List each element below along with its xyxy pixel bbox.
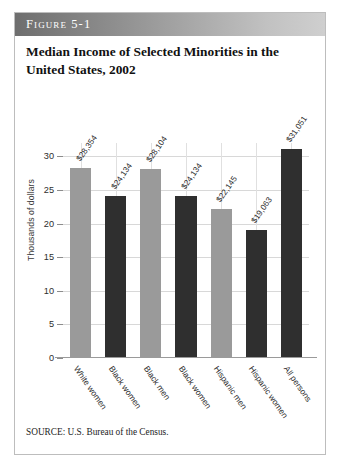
bar: $24,134Black women [105, 196, 126, 358]
y-tick-label: 30 [44, 151, 54, 161]
y-tick-label: 20 [44, 219, 54, 229]
bar-value-label: $19,063 [250, 196, 274, 225]
y-axis-title: Thousands of dollars [26, 160, 36, 280]
y-tick-label: 0 [49, 353, 54, 363]
y-tick-label: 15 [44, 252, 54, 262]
bar-value-label: $28,354 [74, 133, 98, 162]
x-axis-category-label: Hispanic men [212, 364, 249, 411]
bar-value-label: $28,104 [144, 135, 168, 164]
plot-area: 051015202530 $28,354White women$24,134Bl… [63, 143, 309, 358]
x-axis-category-label: Black women [106, 364, 143, 411]
x-axis-category-label: Black men [142, 364, 173, 402]
y-tick-mark [57, 257, 63, 258]
bar: $28,354White women [70, 168, 91, 359]
y-tick-label: 25 [44, 185, 54, 195]
figure-header-band: Figure 5-1 [15, 13, 325, 36]
x-axis-category-label: Black women [177, 364, 214, 411]
bar: $24,134Black women [175, 196, 196, 358]
y-tick-mark [57, 224, 63, 225]
y-tick-label: 10 [44, 286, 54, 296]
figure-number-label: Figure 5-1 [26, 17, 91, 32]
bar: $28,104Black men [140, 169, 161, 358]
chart-plot: Thousands of dollars 051015202530 $28,35… [15, 87, 327, 387]
bar-value-label: $24,134 [109, 161, 133, 190]
bar-value-label: $31,051 [285, 115, 309, 144]
y-tick-mark [57, 324, 63, 325]
y-tick-mark [57, 291, 63, 292]
source-note: SOURCE: U.S. Bureau of the Census. [26, 427, 169, 437]
bar: $19,063Hispanic women [246, 230, 267, 358]
x-axis-category-label: White women [71, 364, 108, 411]
y-tick-mark [57, 190, 63, 191]
chart-title: Median Income of Selected Minorities in … [26, 43, 314, 78]
x-axis-line [55, 357, 317, 358]
y-tick-label: 5 [49, 319, 54, 329]
bar: $22,145Hispanic men [211, 209, 232, 358]
figure-card: Figure 5-1 Median Income of Selected Min… [14, 12, 326, 455]
x-axis-category-label: All persons [282, 364, 314, 404]
y-tick-mark [57, 156, 63, 157]
bar: $31,051All persons [281, 149, 302, 358]
y-tick-mark [57, 358, 63, 359]
bar-value-label: $24,134 [180, 161, 204, 190]
